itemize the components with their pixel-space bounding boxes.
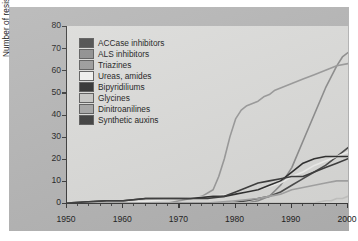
legend-item: Triazines <box>79 60 164 70</box>
x-tick-label: 1990 <box>274 214 308 224</box>
x-tick-mark <box>291 204 292 208</box>
y-tick-label: 70 <box>39 44 61 53</box>
y-axis-ticks: 01020304050607080 <box>37 26 61 203</box>
x-tick-mark <box>66 204 67 208</box>
legend-label: Glycines <box>98 94 130 102</box>
x-tick-minor-mark <box>111 204 112 206</box>
x-tick-minor-mark <box>325 204 326 206</box>
x-tick-minor-mark <box>223 204 224 206</box>
x-tick-label: 1980 <box>218 214 252 224</box>
legend-label: Dinitroanilines <box>98 105 150 113</box>
y-tick-label: 0 <box>39 198 61 207</box>
legend-swatch <box>79 71 94 81</box>
legend-label: ALS inhibitors <box>98 50 149 58</box>
figure-root: Number of resistant species 010203040506… <box>0 0 358 241</box>
x-tick-minor-mark <box>156 204 157 206</box>
x-tick-minor-mark <box>88 204 89 206</box>
x-tick-mark <box>235 204 236 208</box>
chart-legend: ACCase inhibitorsALS inhibitorsTriazines… <box>79 38 164 125</box>
legend-item: ACCase inhibitors <box>79 38 164 48</box>
legend-item: Glycines <box>79 93 164 103</box>
x-tick-minor-mark <box>280 204 281 206</box>
legend-label: Bipyridiliums <box>98 83 145 91</box>
legend-item: Synthetic auxins <box>79 115 164 125</box>
x-tick-label: 1950 <box>49 214 83 224</box>
legend-label: Ureas, amides <box>98 72 152 80</box>
legend-item: Dinitroanilines <box>79 104 164 114</box>
x-tick-minor-mark <box>246 204 247 206</box>
x-tick-minor-mark <box>313 204 314 206</box>
y-axis-label: Number of resistant species <box>2 0 11 57</box>
legend-swatch <box>79 60 94 70</box>
x-tick-minor-mark <box>190 204 191 206</box>
series-line <box>67 181 348 203</box>
x-tick-label: 1970 <box>161 214 195 224</box>
legend-item: Bipyridiliums <box>79 82 164 92</box>
x-tick-minor-mark <box>145 204 146 206</box>
x-tick-minor-mark <box>100 204 101 206</box>
y-tick-label: 80 <box>39 21 61 30</box>
plot-area: ACCase inhibitorsALS inhibitorsTriazines… <box>66 26 348 204</box>
x-tick-minor-mark <box>302 204 303 206</box>
x-axis-ticks: 195019601970198019902000 <box>66 204 348 228</box>
y-tick-label: 50 <box>39 88 61 97</box>
y-tick-label: 10 <box>39 176 61 185</box>
x-tick-minor-mark <box>167 204 168 206</box>
x-tick-minor-mark <box>77 204 78 206</box>
legend-item: Ureas, amides <box>79 71 164 81</box>
legend-label: Triazines <box>98 61 131 69</box>
x-tick-label: 1960 <box>105 214 139 224</box>
legend-swatch <box>79 93 94 103</box>
legend-swatch <box>79 115 94 125</box>
x-tick-minor-mark <box>201 204 202 206</box>
legend-swatch <box>79 104 94 114</box>
figure-panel: Number of resistant species 010203040506… <box>9 7 349 231</box>
y-tick-label: 60 <box>39 66 61 75</box>
x-tick-mark <box>178 204 179 208</box>
legend-swatch <box>79 38 94 48</box>
x-tick-minor-mark <box>212 204 213 206</box>
x-tick-minor-mark <box>336 204 337 206</box>
y-tick-label: 40 <box>39 110 61 119</box>
y-tick-label: 20 <box>39 154 61 163</box>
x-tick-minor-mark <box>257 204 258 206</box>
x-tick-minor-mark <box>133 204 134 206</box>
x-tick-mark <box>347 204 348 208</box>
legend-swatch <box>79 49 94 59</box>
legend-swatch <box>79 82 94 92</box>
x-tick-label: 2000 <box>330 214 358 224</box>
legend-label: ACCase inhibitors <box>98 39 164 47</box>
legend-item: ALS inhibitors <box>79 49 164 59</box>
x-tick-mark <box>122 204 123 208</box>
legend-label: Synthetic auxins <box>98 116 158 124</box>
x-tick-minor-mark <box>268 204 269 206</box>
y-tick-label: 30 <box>39 132 61 141</box>
